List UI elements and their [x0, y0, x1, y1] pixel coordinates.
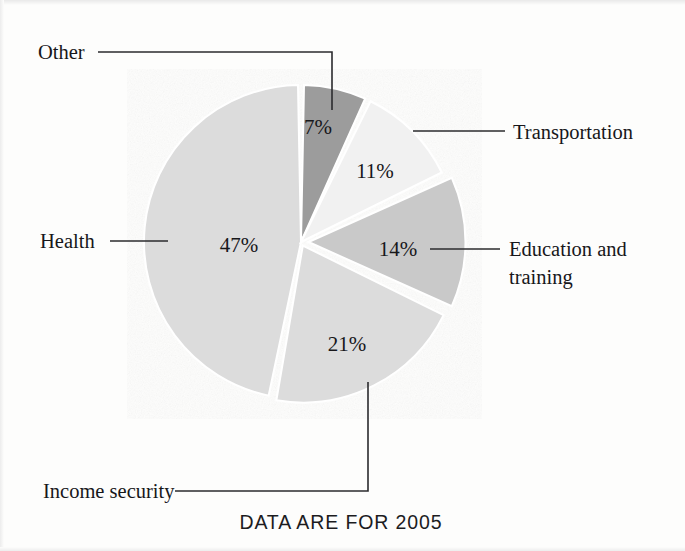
callout-label-income-security: Income security — [43, 480, 175, 503]
slice-value-other: 7% — [304, 115, 332, 139]
slice-value-education: 14% — [379, 237, 418, 261]
callout-label-health: Health — [40, 230, 95, 252]
pie-chart-figure: 7% 11% 14% 21% 47% Other Transportation … — [0, 0, 685, 551]
callout-label-education-line1: Education and — [509, 238, 627, 260]
callout-label-education-line2: training — [509, 266, 573, 289]
chart-caption: DATA ARE FOR 2005 — [239, 511, 442, 533]
pie-chart-svg: 7% 11% 14% 21% 47% Other Transportation … — [0, 0, 685, 551]
slice-value-health: 47% — [220, 233, 259, 257]
callout-label-other: Other — [38, 41, 85, 63]
slice-value-transportation: 11% — [356, 159, 394, 183]
slice-value-income-security: 21% — [328, 332, 367, 356]
callout-label-transportation: Transportation — [513, 121, 633, 144]
